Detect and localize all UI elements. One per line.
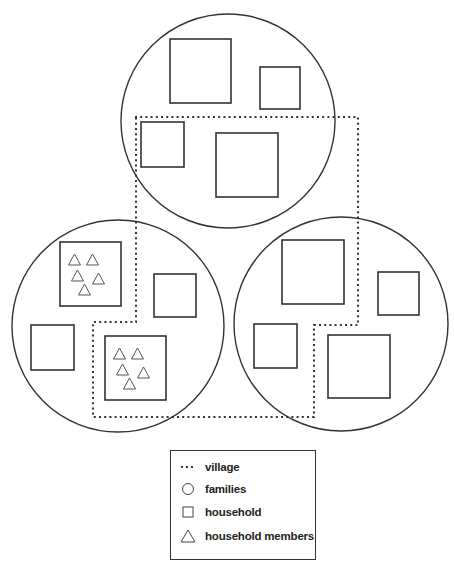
legend: village families household household mem… — [170, 450, 316, 560]
legend-item-household-members: household members — [171, 526, 314, 546]
triangle-icon — [171, 528, 205, 544]
legend-label-families: families — [205, 483, 246, 495]
household-square — [141, 122, 184, 167]
household-member-triangle — [132, 348, 144, 359]
village-boundary — [93, 117, 358, 417]
household-square — [260, 67, 300, 109]
legend-label-household-members: household members — [205, 530, 314, 542]
legend-item-household: household — [171, 502, 261, 522]
household-member-triangle — [124, 378, 136, 389]
household-member-triangle — [117, 364, 129, 375]
square-icon — [171, 505, 205, 519]
family-circle-top — [121, 14, 335, 228]
household-member-triangle — [72, 270, 84, 281]
household-square — [328, 335, 390, 398]
legend-item-village: village — [171, 457, 239, 477]
household-member-triangle — [93, 273, 105, 284]
household-member-triangle — [87, 254, 99, 265]
families-layer — [12, 14, 448, 432]
household-square — [378, 272, 419, 315]
household-square — [154, 274, 196, 317]
household-square — [170, 39, 231, 103]
dotted-line-icon — [171, 464, 205, 470]
household-square — [105, 336, 166, 400]
household-square — [254, 324, 297, 368]
household-square — [216, 133, 278, 197]
circle-icon — [171, 482, 205, 496]
household-square — [60, 242, 121, 306]
legend-item-families: families — [171, 479, 246, 499]
household-member-triangle — [114, 348, 126, 359]
household-member-triangle — [138, 367, 150, 378]
legend-label-village: village — [205, 461, 239, 473]
household-square — [31, 325, 74, 370]
household-member-triangle — [79, 284, 91, 295]
household-member-triangle — [69, 254, 81, 265]
household-square — [282, 240, 344, 304]
legend-label-household: household — [205, 506, 261, 518]
